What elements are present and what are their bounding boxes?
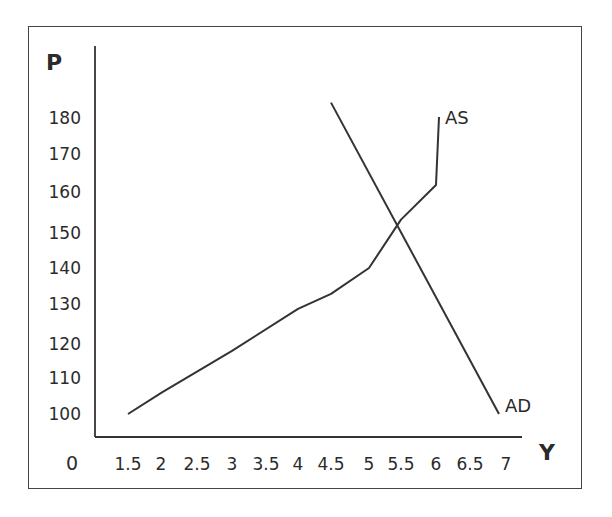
x-tick-label: 5 [364,454,375,474]
x-tick-label: 2.5 [183,454,210,474]
y-axis-title: P [46,50,62,75]
y-tick-label: 110 [49,368,81,388]
as-curve-label: AS [445,107,469,128]
x-tick-label: 4.5 [317,454,344,474]
y-tick-label: 120 [49,334,81,354]
ad-curve [331,103,499,414]
x-tick-label: 6 [431,454,442,474]
chart: P Y 0 180 170 160 150 140 130 120 110 10… [0,0,612,517]
x-tick-label: 3.5 [252,454,279,474]
y-tick-label: 150 [49,223,81,243]
y-tick-label: 180 [49,108,81,128]
as-curve [128,117,439,414]
x-axis-title: Y [538,440,556,465]
origin-label: 0 [66,452,78,474]
y-tick-label: 170 [49,144,81,164]
x-tick-label: 5.5 [387,454,414,474]
y-tick-label: 100 [49,404,81,424]
x-tick-label: 6.5 [456,454,483,474]
x-tick-label: 2 [156,454,167,474]
ad-curve-label: AD [505,395,531,416]
y-tick-label: 140 [49,258,81,278]
y-tick-label: 160 [49,182,81,202]
x-tick-label: 4 [293,454,304,474]
y-tick-labels: 180 170 160 150 140 130 120 110 100 [49,108,81,424]
x-tick-label: 7 [501,454,512,474]
x-tick-labels: 1.5 2 2.5 3 3.5 4 4.5 5 5.5 6 6.5 7 [114,454,511,474]
x-tick-label: 3 [227,454,238,474]
y-tick-label: 130 [49,294,81,314]
x-tick-label: 1.5 [114,454,141,474]
